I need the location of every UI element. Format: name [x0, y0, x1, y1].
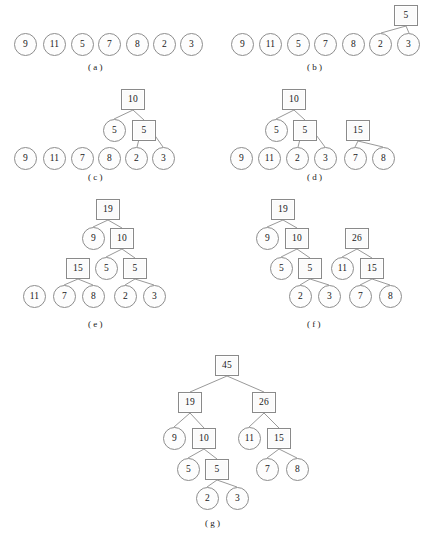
f-internal-26: 26 [345, 228, 369, 249]
g-leaf-8: 8 [286, 458, 309, 481]
d-internal-5: 5 [293, 120, 317, 141]
d-internal-10: 10 [282, 89, 306, 110]
tree-edge [381, 26, 406, 33]
tree-edge [106, 249, 122, 257]
e-leaf-2: 2 [114, 285, 137, 308]
huffman-tree-figure: 9115782391157823591178235510911237855101… [0, 0, 438, 538]
c-leaf-3: 3 [152, 147, 175, 170]
panel-label-a: ( a ) [88, 62, 103, 72]
e-internal-10: 10 [110, 228, 134, 249]
tree-edge [276, 110, 294, 119]
f-leaf-7: 7 [349, 285, 372, 308]
tree-edge [93, 220, 108, 227]
d-leaf-5: 5 [265, 119, 288, 142]
tree-edge [122, 249, 135, 258]
tree-edge [227, 376, 264, 392]
tree-edge [249, 413, 264, 427]
tree-edge [174, 413, 190, 427]
g-leaf-3: 3 [226, 487, 249, 510]
tree-edge [114, 110, 133, 119]
b-leaf-2: 2 [369, 33, 392, 56]
tree-edge [133, 110, 144, 120]
c-leaf-7: 7 [71, 147, 94, 170]
tree-edge [204, 449, 217, 459]
f-internal-15: 15 [360, 258, 384, 279]
f-internal-19: 19 [271, 199, 295, 220]
tree-edge [406, 26, 409, 33]
e-leaf-7: 7 [53, 285, 76, 308]
d-leaf-8: 8 [372, 147, 395, 170]
tree-edge [357, 249, 372, 258]
panel-label-e: ( e ) [88, 319, 103, 329]
tree-edge [78, 279, 93, 285]
tree-edge [358, 141, 383, 147]
b-leaf-11: 11 [259, 33, 282, 56]
g-internal-15: 15 [267, 428, 291, 449]
c-leaf-9: 9 [14, 147, 37, 170]
a-leaf-7: 7 [98, 33, 121, 56]
e-internal-15: 15 [66, 258, 90, 279]
c-leaf-8: 8 [98, 147, 121, 170]
e-internal-19: 19 [96, 199, 120, 220]
c-leaf-5: 5 [103, 119, 126, 142]
b-leaf-5: 5 [287, 33, 310, 56]
f-leaf-9: 9 [256, 227, 279, 250]
tree-edge [188, 449, 204, 458]
tree-edge [190, 376, 227, 392]
g-leaf-5: 5 [177, 458, 200, 481]
e-leaf-11: 11 [23, 285, 46, 308]
c-internal-5: 5 [132, 120, 156, 141]
e-leaf-9: 9 [82, 227, 105, 250]
f-internal-5: 5 [298, 258, 322, 279]
d-leaf-3: 3 [314, 147, 337, 170]
e-leaf-8: 8 [82, 285, 105, 308]
d-leaf-7: 7 [344, 147, 367, 170]
tree-edge [342, 249, 357, 257]
panel-label-f: ( f ) [307, 319, 321, 329]
b-leaf-9: 9 [231, 33, 254, 56]
tree-edge [108, 220, 122, 228]
tree-edge [283, 220, 297, 228]
panel-label-d: ( d ) [307, 172, 322, 182]
tree-edge [217, 480, 237, 487]
tree-edge [190, 413, 204, 428]
d-leaf-11: 11 [258, 147, 281, 170]
g-leaf-7: 7 [256, 458, 279, 481]
b-internal-5: 5 [394, 5, 418, 26]
e-leaf-3: 3 [143, 285, 166, 308]
a-leaf-3: 3 [180, 33, 203, 56]
e-internal-5: 5 [123, 258, 147, 279]
tree-edge [207, 480, 217, 487]
g-leaf-9: 9 [163, 427, 186, 450]
tree-edge [264, 413, 279, 428]
b-leaf-8: 8 [342, 33, 365, 56]
g-internal-10: 10 [192, 428, 216, 449]
tree-edge [267, 449, 279, 458]
tree-edge [279, 449, 297, 458]
f-leaf-2: 2 [289, 285, 312, 308]
tree-edge [297, 249, 310, 258]
panel-label-g: ( g ) [205, 518, 220, 528]
f-leaf-11: 11 [331, 257, 354, 280]
tree-edge [135, 279, 154, 285]
g-internal-5: 5 [205, 459, 229, 480]
c-internal-10: 10 [121, 89, 145, 110]
g-internal-19: 19 [178, 392, 202, 413]
panel-label-b: ( b ) [307, 62, 322, 72]
f-leaf-3: 3 [318, 285, 341, 308]
g-leaf-11: 11 [238, 427, 261, 450]
c-leaf-11: 11 [43, 147, 66, 170]
tree-edge [310, 279, 329, 285]
a-leaf-8: 8 [126, 33, 149, 56]
g-internal-26: 26 [252, 392, 276, 413]
f-internal-10: 10 [285, 228, 309, 249]
c-leaf-2: 2 [125, 147, 148, 170]
a-leaf-5: 5 [71, 33, 94, 56]
d-leaf-9: 9 [230, 147, 253, 170]
d-internal-15: 15 [346, 120, 370, 141]
panel-label-c: ( c ) [88, 172, 103, 182]
f-leaf-8: 8 [379, 285, 402, 308]
d-leaf-2: 2 [286, 147, 309, 170]
b-leaf-7: 7 [314, 33, 337, 56]
b-leaf-3: 3 [397, 33, 420, 56]
